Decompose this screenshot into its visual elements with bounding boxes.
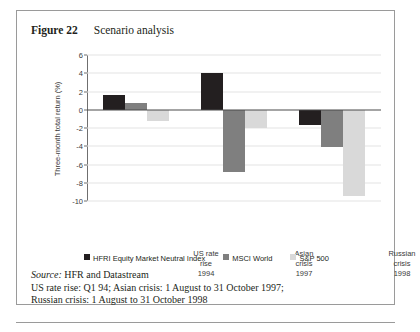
figure-header: Figure 22Scenario analysis	[31, 24, 174, 36]
figure-number: Figure 22	[31, 24, 78, 36]
gridline	[87, 91, 381, 92]
chart-legend: HFRI Equity Market Neutral IndexMSCI Wor…	[17, 253, 396, 263]
source-label: Source:	[31, 269, 62, 280]
y-axis-tick-label: -6	[76, 160, 87, 169]
bar-1-3	[299, 110, 321, 126]
source-text: HFR and Datastream	[62, 269, 149, 280]
chart-plot-area: Three-month total return (%) 6420-2-4-6-…	[55, 49, 387, 209]
page-divider-rule	[16, 322, 395, 323]
bar-3-2	[245, 110, 267, 128]
bar-1-1	[103, 95, 125, 110]
legend-swatch-icon	[223, 254, 229, 260]
source-line: Source: HFR and Datastream	[31, 269, 383, 282]
legend-item-3[interactable]: S&P 500	[290, 253, 328, 263]
bar-2-3	[321, 110, 343, 147]
gridline	[87, 201, 381, 202]
bar-2-2	[223, 110, 245, 172]
y-axis-tick-label: -8	[76, 178, 87, 187]
legend-swatch-icon	[84, 254, 90, 260]
y-axis-tick-label: -4	[76, 142, 87, 151]
legend-label: MSCI World	[232, 254, 272, 263]
y-axis-tick-label: 0	[79, 105, 87, 114]
y-axis-tick-label: 6	[79, 51, 87, 60]
note-line-3: Russian crisis: 1 August to 31 October 1…	[31, 294, 383, 307]
figure-notes: Source: HFR and Datastream US rate rise:…	[31, 269, 383, 307]
bar-3-1	[147, 110, 169, 121]
y-axis-tick-label: -10	[72, 197, 87, 206]
legend-item-2[interactable]: MSCI World	[223, 253, 272, 263]
chart-axes: 6420-2-4-6-8-10	[87, 55, 381, 201]
legend-label: HFRI Equity Market Neutral Index	[93, 254, 205, 263]
legend-swatch-icon	[290, 254, 296, 260]
legend-label: S&P 500	[299, 254, 328, 263]
gridline	[87, 73, 381, 74]
figure-title: Scenario analysis	[94, 24, 174, 36]
figure-box: Figure 22Scenario analysis Three-month t…	[16, 10, 395, 305]
gridline	[87, 182, 381, 183]
gridline	[87, 55, 381, 56]
bar-3-3	[343, 110, 365, 196]
legend-item-1[interactable]: HFRI Equity Market Neutral Index	[84, 253, 205, 263]
y-axis-tick-label: -2	[76, 124, 87, 133]
y-axis-label: Three-month total return (%)	[51, 49, 65, 209]
zero-baseline	[87, 109, 381, 110]
y-axis-tick-label: 4	[79, 69, 87, 78]
note-line-2: US rate rise: Q1 94; Asian crisis: 1 Aug…	[31, 282, 383, 295]
y-axis-tick-label: 2	[79, 87, 87, 96]
bar-1-2	[201, 73, 223, 110]
